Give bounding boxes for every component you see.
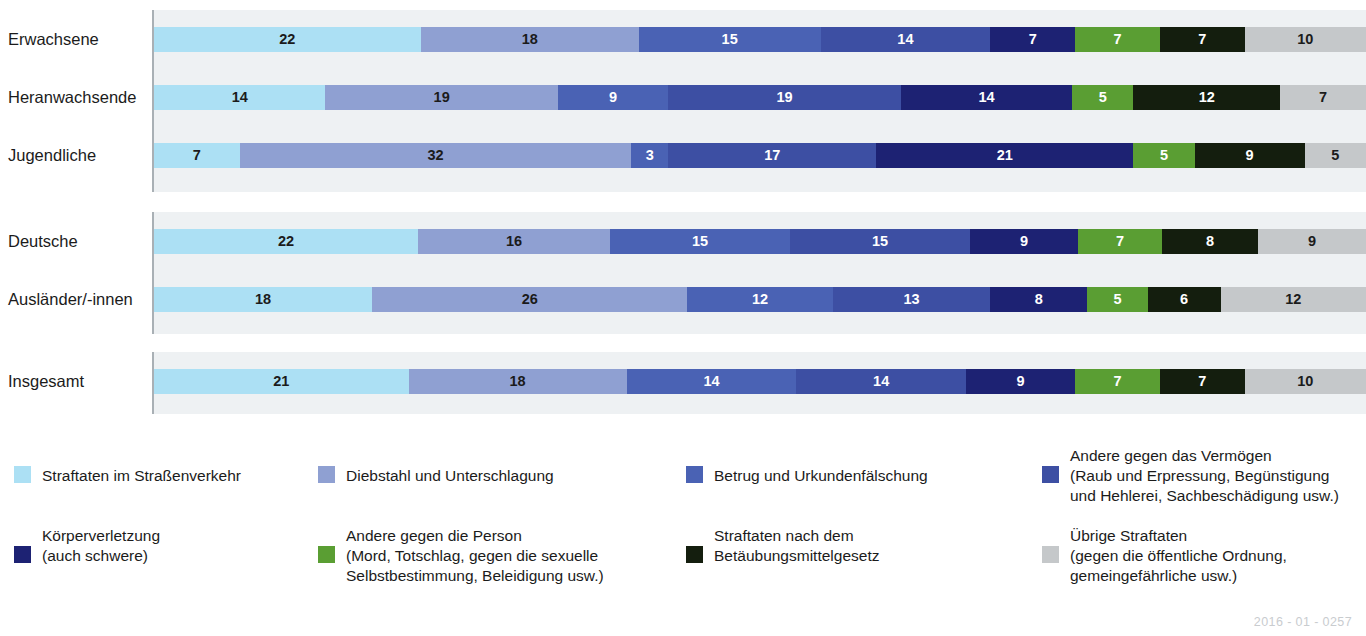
bar-segment: 14: [154, 85, 325, 110]
bar-segment: 15: [790, 229, 970, 254]
legend-item-strassenverkehr[interactable]: Straftaten im Straßenverkehr: [14, 466, 241, 486]
bar-value-label: 12: [1199, 90, 1215, 105]
bar-segment: 3: [631, 143, 668, 168]
bar-segment: 18: [154, 287, 372, 312]
bar-value-label: 14: [873, 374, 889, 389]
bar-value-label: 21: [273, 374, 289, 389]
bar-value-label: 3: [646, 148, 654, 163]
row-label-3: Deutsche: [8, 212, 146, 270]
bar-segment: 7: [1160, 27, 1245, 52]
bar-segment: 5: [1133, 143, 1194, 168]
legend-item-btmg[interactable]: Straftaten nach dem Betäubungsmittelgese…: [686, 526, 879, 566]
bar-value-label: 22: [278, 234, 294, 249]
legend-item-koerperverletzung[interactable]: Körperverletzung (auch schwere): [14, 526, 160, 566]
legend-label-vermoegen: Andere gegen das Vermögen (Raub und Erpr…: [1070, 446, 1339, 506]
stacked-bar: 73231721595: [154, 143, 1366, 168]
stacked-bar-chart: Erwachsene2218151477710Heranwachsende141…: [0, 0, 1366, 432]
bar-value-label: 7: [1319, 90, 1327, 105]
bar-value-label: 5: [1113, 292, 1121, 307]
bar-segment: 13: [833, 287, 991, 312]
bar-segment: 32: [240, 143, 632, 168]
bar-value-label: 26: [522, 292, 538, 307]
bar-segment: 5: [1072, 85, 1133, 110]
row-label-2: Jugendliche: [8, 126, 146, 184]
bar-value-label: 22: [279, 32, 295, 47]
legend-label-koerperverletzung: Körperverletzung (auch schwere): [42, 526, 160, 566]
chart-group-staatsangehoerigkeit: Deutsche221615159789Ausländer/-innen1826…: [0, 212, 1366, 334]
bar-segment: 21: [876, 143, 1133, 168]
bar-segment: 9: [1258, 229, 1366, 254]
bar-segment: 7: [1075, 369, 1160, 394]
legend-swatch-uebrige: [1042, 546, 1059, 563]
bar-value-label: 19: [434, 90, 450, 105]
bar-segment: 9: [1195, 143, 1305, 168]
bar-value-label: 9: [1017, 374, 1025, 389]
bar-segment: 6: [1148, 287, 1221, 312]
bar-segment: 7: [1280, 85, 1366, 110]
bar-segment: 7: [990, 27, 1075, 52]
bar-segment: 10: [1245, 27, 1366, 52]
bar-value-label: 13: [903, 292, 919, 307]
legend-item-uebrige[interactable]: Übrige Straftaten (gegen die öffentliche…: [1042, 526, 1287, 586]
bar-value-label: 7: [1029, 32, 1037, 47]
bar-segment: 5: [1087, 287, 1148, 312]
bar-value-label: 14: [978, 90, 994, 105]
bar-segment: 22: [154, 27, 421, 52]
bar-value-label: 10: [1297, 374, 1313, 389]
bar-segment: 7: [1075, 27, 1160, 52]
bar-value-label: 9: [1246, 148, 1254, 163]
bar-segment: 14: [901, 85, 1072, 110]
bar-value-label: 7: [1198, 32, 1206, 47]
bar-value-label: 15: [872, 234, 888, 249]
stacked-bar: 1419919145127: [154, 85, 1366, 110]
chart-row: Insgesamt2118141497710: [0, 352, 1366, 410]
chart-row: Heranwachsende1419919145127: [0, 68, 1366, 126]
bar-value-label: 15: [722, 32, 738, 47]
bar-value-label: 12: [752, 292, 768, 307]
legend-label-strassenverkehr: Straftaten im Straßenverkehr: [42, 466, 241, 486]
chart-legend: Straftaten im StraßenverkehrDiebstahl un…: [0, 440, 1366, 620]
chart-row: Ausländer/-innen1826121385612: [0, 270, 1366, 328]
bar-segment: 12: [1133, 85, 1280, 110]
bar-segment: 14: [796, 369, 966, 394]
legend-swatch-diebstahl: [318, 466, 335, 483]
bar-value-label: 6: [1180, 292, 1188, 307]
legend-item-vermoegen[interactable]: Andere gegen das Vermögen (Raub und Erpr…: [1042, 446, 1339, 506]
bar-segment: 18: [421, 27, 639, 52]
bar-value-label: 17: [764, 148, 780, 163]
bar-value-label: 7: [1198, 374, 1206, 389]
bar-segment: 18: [409, 369, 627, 394]
legend-item-person[interactable]: Andere gegen die Person (Mord, Totschlag…: [318, 526, 604, 586]
bar-segment: 9: [558, 85, 668, 110]
bar-segment: 22: [154, 229, 418, 254]
bar-value-label: 14: [897, 32, 913, 47]
row-label-4: Ausländer/-innen: [8, 270, 146, 328]
bar-value-label: 10: [1297, 32, 1313, 47]
bar-value-label: 5: [1160, 148, 1168, 163]
stacked-bar: 2218151477710: [154, 27, 1366, 52]
row-label-1: Heranwachsende: [8, 68, 146, 126]
chart-row: Erwachsene2218151477710: [0, 10, 1366, 68]
bar-segment: 12: [687, 287, 832, 312]
bar-value-label: 15: [692, 234, 708, 249]
stacked-bar: 221615159789: [154, 229, 1366, 254]
legend-label-betrug: Betrug und Urkundenfälschung: [714, 466, 928, 486]
bar-segment: 9: [970, 229, 1078, 254]
legend-label-diebstahl: Diebstahl und Unterschlagung: [346, 466, 554, 486]
bar-segment: 10: [1245, 369, 1366, 394]
legend-item-betrug[interactable]: Betrug und Urkundenfälschung: [686, 466, 928, 486]
chart-group-insgesamt: Insgesamt2118141497710: [0, 352, 1366, 414]
bar-segment: 19: [668, 85, 901, 110]
chart-row: Deutsche221615159789: [0, 212, 1366, 270]
bar-segment: 7: [154, 143, 240, 168]
stacked-bar: 1826121385612: [154, 287, 1366, 312]
legend-swatch-betrug: [686, 466, 703, 483]
bar-value-label: 8: [1035, 292, 1043, 307]
footer-code: 2016 - 01 - 0257: [1254, 615, 1352, 629]
bar-segment: 9: [966, 369, 1075, 394]
bar-value-label: 7: [1113, 32, 1121, 47]
bar-value-label: 5: [1099, 90, 1107, 105]
legend-item-diebstahl[interactable]: Diebstahl und Unterschlagung: [318, 466, 554, 486]
bar-segment: 8: [990, 287, 1087, 312]
bar-segment: 7: [1078, 229, 1162, 254]
